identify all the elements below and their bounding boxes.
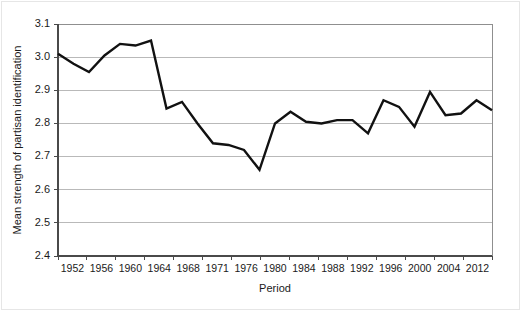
x-tick-label: 1976 (234, 262, 258, 274)
x-tick-label: 1960 (119, 262, 143, 274)
x-tick-label: 1968 (177, 262, 201, 274)
x-tick-label: 1980 (263, 262, 287, 274)
y-tick-label: 2.9 (35, 83, 50, 95)
line-chart: 2.42.52.62.72.82.93.03.1 195219561960196… (0, 0, 521, 311)
x-tick-label: 1956 (90, 262, 114, 274)
y-tick-label: 2.6 (35, 183, 50, 195)
data-series-line (58, 41, 492, 170)
x-tick-label: 1996 (379, 262, 403, 274)
x-tick-label: 1992 (350, 262, 374, 274)
plot-frame (58, 24, 492, 256)
y-tick-label: 2.4 (35, 249, 50, 261)
x-tick-label: 2004 (437, 262, 461, 274)
y-tick-label: 2.8 (35, 116, 50, 128)
x-axis-title: Period (259, 282, 291, 294)
x-tick-label: 1964 (148, 262, 172, 274)
y-tick-label: 2.7 (35, 149, 50, 161)
x-tick-label: 2000 (408, 262, 432, 274)
x-tick-label: 1971 (205, 262, 229, 274)
y-tick-label: 2.5 (35, 216, 50, 228)
x-tick-label: 2012 (466, 262, 490, 274)
x-tick-label: 1952 (61, 262, 85, 274)
gridlines (58, 57, 492, 223)
y-axis-title: Mean strength of partisan identification (11, 46, 23, 235)
chart-svg: 2.42.52.62.72.82.93.03.1 195219561960196… (0, 0, 521, 311)
x-tick-label: 1988 (321, 262, 345, 274)
chart-page: 2.42.52.62.72.82.93.03.1 195219561960196… (0, 0, 521, 311)
x-tick-labels: 1952195619601964196819711976198019841988… (61, 262, 490, 274)
y-tick-labels: 2.42.52.62.72.82.93.03.1 (35, 17, 50, 261)
y-tick-label: 3.0 (35, 50, 50, 62)
y-tick-label: 3.1 (35, 17, 50, 29)
x-tick-label: 1984 (292, 262, 316, 274)
